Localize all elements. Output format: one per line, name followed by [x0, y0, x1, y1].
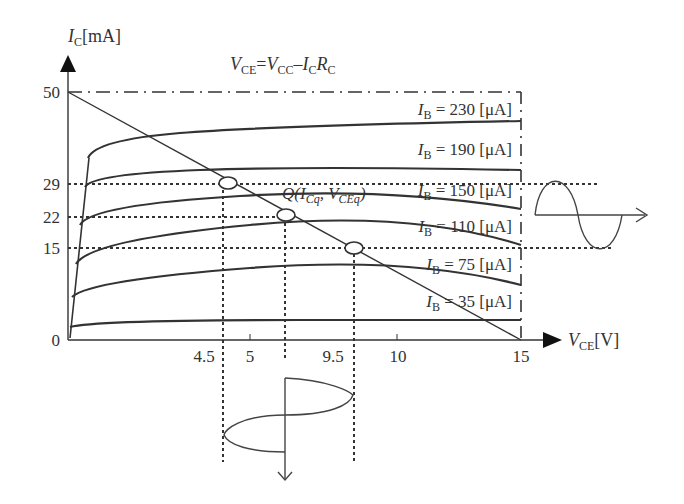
- x-tick-labels: 4.5 5 9.5 10 15: [193, 347, 529, 366]
- svg-text:IB = 75 [μA]: IB = 75 [μA]: [425, 255, 512, 277]
- q-point-label: Q(ICq, VCEq): [282, 184, 366, 206]
- input-sine-wave: [535, 181, 647, 249]
- svg-text:50: 50: [43, 83, 60, 102]
- transistor-characteristics-diagram: IC[mA] VCE[V] VCE=VCC–ICRC 50 29 22 15 0…: [0, 0, 684, 504]
- svg-text:4.5: 4.5: [193, 347, 214, 366]
- svg-text:10: 10: [390, 347, 407, 366]
- x-axis-label: VCE[V]: [568, 330, 619, 353]
- svg-text:15: 15: [513, 347, 530, 366]
- y-axis-label: IC[mA]: [67, 26, 121, 49]
- y-axis-arrow-icon: [60, 55, 76, 72]
- svg-text:5: 5: [246, 347, 255, 366]
- x-axis-arrow-icon: [543, 332, 562, 348]
- q-point: [277, 209, 295, 221]
- curve-labels: IB = 230 [μA] IB = 190 [μA] IB = 150 [μA…: [417, 100, 512, 314]
- output-sine-wave: [224, 378, 353, 480]
- svg-text:IB = 110 [μA]: IB = 110 [μA]: [417, 217, 512, 239]
- svg-text:0: 0: [52, 331, 61, 350]
- svg-text:22: 22: [43, 208, 60, 227]
- svg-text:IB = 150 [μA]: IB = 150 [μA]: [417, 181, 512, 203]
- swing-point-upper: [219, 177, 237, 189]
- load-line-equation: VCE=VCC–ICRC: [230, 54, 336, 77]
- svg-text:15: 15: [43, 239, 60, 258]
- svg-text:IB = 190 [μA]: IB = 190 [μA]: [417, 140, 512, 162]
- projection-lines: [68, 184, 611, 462]
- svg-text:29: 29: [43, 175, 60, 194]
- svg-text:IB = 230 [μA]: IB = 230 [μA]: [417, 100, 512, 122]
- y-tick-labels: 50 29 22 15 0: [43, 83, 60, 350]
- svg-text:9.5: 9.5: [322, 347, 343, 366]
- swing-point-lower: [345, 242, 363, 254]
